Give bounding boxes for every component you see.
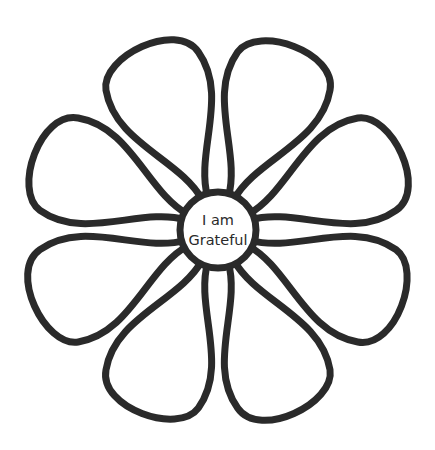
center-text-line-1: I am [202,210,234,230]
center-label: I am Grateful [178,192,258,268]
center-text-line-2: Grateful [188,230,247,250]
